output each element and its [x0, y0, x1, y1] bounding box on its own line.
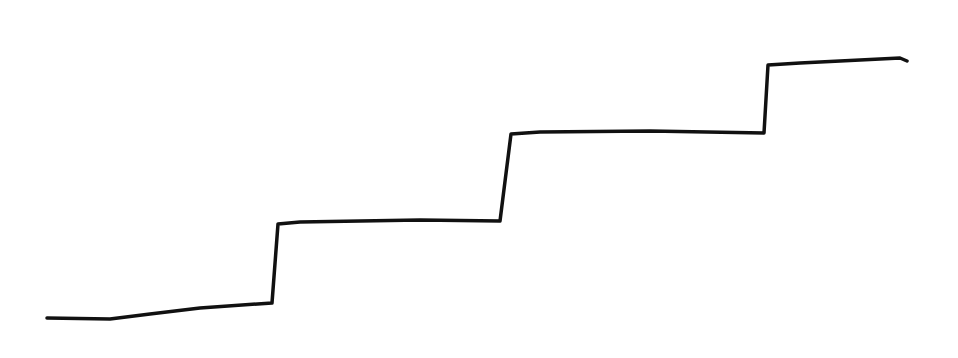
staircase-diagram: [0, 0, 958, 358]
staircase-line: [47, 58, 907, 319]
diagram-canvas: [0, 0, 958, 358]
